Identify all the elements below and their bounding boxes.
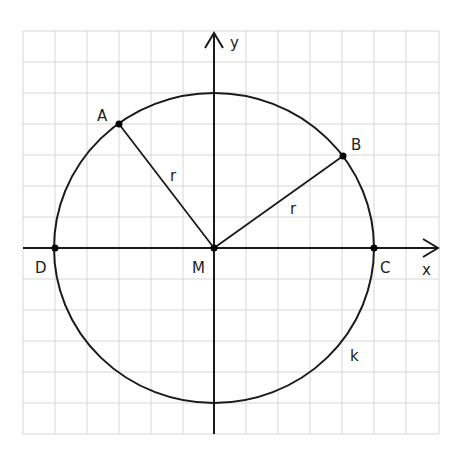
- point-M: [211, 245, 218, 252]
- point-A: [116, 121, 123, 128]
- label-M: M: [192, 259, 205, 277]
- label-k: k: [350, 347, 359, 365]
- point-C: [371, 245, 378, 252]
- label-C: C: [380, 259, 390, 277]
- grid: [23, 31, 439, 434]
- label-A: A: [97, 107, 108, 125]
- label-r-MA: r: [170, 167, 177, 185]
- label-y-axis: y: [230, 34, 239, 52]
- label-B: B: [351, 136, 361, 154]
- label-D: D: [35, 259, 47, 277]
- label-x-axis: x: [422, 261, 431, 279]
- coordinate-diagram: A B C D M x y k r r: [0, 0, 459, 451]
- point-B: [340, 153, 347, 160]
- point-D: [52, 245, 59, 252]
- label-r-MB: r: [290, 200, 297, 218]
